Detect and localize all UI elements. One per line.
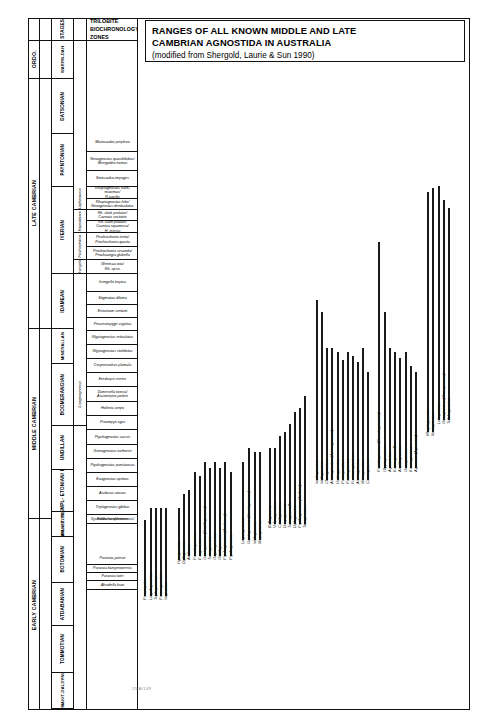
figure-number: 25/A/149 <box>132 686 151 691</box>
zone-31: Pararaia tatei <box>87 573 138 581</box>
zone-19: Holteria arepo <box>87 402 138 416</box>
zone-11-label: Stigmatoa diloma <box>97 296 128 300</box>
stage-10: ORDIAN/ E. TEMP. <box>52 512 73 537</box>
subzone-2-label: Peichiashania <box>78 235 82 257</box>
system-2: MIDDLE CAMBRIAN <box>28 329 39 519</box>
header-stages-label: STAGES <box>60 19 65 39</box>
zone-2: Sinosaukia impages <box>87 171 138 187</box>
zone-32-label: Abadiella huoi <box>100 583 125 587</box>
header-series <box>40 18 51 41</box>
zone-9: Wentsua iota/Rh. apsis <box>87 260 138 274</box>
taxon-label: Agnostus (Agnostus) <box>413 435 418 472</box>
zone-29: Pararaia janeae <box>87 552 138 565</box>
stage-14-label: NEMAKIT-DALDYNIAN <box>60 673 65 709</box>
zone-24-label: Euagnostus opimus <box>95 477 129 481</box>
range-bar <box>448 208 450 420</box>
range-bar <box>427 192 429 432</box>
taxon-label: Aspidagnostus <box>397 446 402 472</box>
zone-20-label: Proampyx agra <box>99 420 126 424</box>
zone-20: Proampyx agra <box>87 416 138 430</box>
zone-18: Damesella torosa/Ascionepea janitrix <box>87 387 138 402</box>
series-seg-2 <box>40 329 51 519</box>
zone-21: Ptychagnostus cassis <box>87 430 138 445</box>
stage-1-label: DATSONIAN <box>60 92 65 121</box>
zone-14-label: Glyptagnostus reticulatus <box>91 335 134 339</box>
zone-30-label: Pararaia bunyerooensis <box>92 566 133 570</box>
subzone-3-label: Irvingella <box>78 260 82 274</box>
system-2-label: MIDDLE CAMBRIAN <box>31 397 37 450</box>
subzone-3: Irvingella <box>74 260 86 274</box>
zone-16: Corynexochus plumula <box>87 359 138 373</box>
stage-3: IVERIAN <box>52 187 73 274</box>
zone-4: Rhaptagnostus felix/Neoagnostus denticul… <box>87 199 138 210</box>
zone-14: Glyptagnostus reticulatus <box>87 331 138 345</box>
taxon-label: Taxagnostus <box>302 506 307 528</box>
zone-23: Ptychagnostus punctuosus <box>87 459 138 473</box>
zone-3-label: Rhaptagnostus clark-maximus/R.papilio <box>87 187 138 199</box>
subzone-2: Peichiashania <box>74 233 86 260</box>
series-seg-0 <box>40 41 51 79</box>
stage-4-label: IDAMEAN <box>60 290 65 313</box>
zone-13-label: Proceratopyge cryptica <box>93 322 133 326</box>
zone-24: Euagnostus opimus <box>87 473 138 487</box>
zone-17-label: Eredaspis eretes <box>98 377 128 381</box>
header-zones: TRILOBITEBIOCHRONOLOGY:ZONES <box>87 18 138 41</box>
stage-6: BOOMERANGIAN <box>52 364 73 426</box>
stage-2: PAYNTONIAN <box>52 134 73 187</box>
zone-13: Proceratopyge cryptica <box>87 318 138 331</box>
zone-23-label: Ptychagnostus punctuosus <box>89 463 135 467</box>
system-3-label: EARLY CAMBRIAN <box>31 580 37 630</box>
series-seg-1 <box>40 79 51 329</box>
zone-2-label: Sinosaukia impages <box>95 176 130 180</box>
system-0-label: ORDO. <box>31 50 37 68</box>
stage-0: WARRN-DAH <box>52 41 73 79</box>
taxon-label: Trilobagnostus <box>446 398 451 424</box>
zone-9-label: Wentsua iota/Rh. apsis <box>100 262 124 271</box>
zone-5: Rh. clark prolatus/Caznaia sectatrix <box>87 210 138 221</box>
stage-8-label: LATE TEMPL- ETONIAN/ FLORAN <box>60 470 65 512</box>
system-column: ORDO.LATE CAMBRIANMIDDLE CAMBRIANEARLY C… <box>28 18 40 710</box>
range-bar <box>389 348 391 468</box>
stage-6-label: BOOMERANGIAN <box>60 374 65 415</box>
taxon-label: Neoagnostus <box>430 413 435 436</box>
taxon-label: Peronopsis <box>142 580 147 600</box>
stage-11-label: BOTOMIAN <box>60 546 65 573</box>
range-bar <box>316 300 318 480</box>
taxon-label: Ptychagnostus (Acidusus) <box>222 514 227 560</box>
range-bar <box>438 186 440 420</box>
header-subzone <box>74 18 86 41</box>
taxon-label: Ptychagnostus <box>228 534 233 560</box>
stage-12: ATDABANIAN <box>52 583 73 626</box>
zone-26: Triplagnostus gibbus <box>87 501 138 515</box>
zone-18-label: Damesella torosa/Ascionepea janitrix <box>96 390 129 399</box>
stage-0-label: WARRN-DAH <box>60 46 65 73</box>
taxon-label: Itagnostus <box>163 582 168 600</box>
stage-14: NEMAKIT-DALDYNIAN <box>52 673 73 709</box>
zone-4-label: Rhaptagnostus felix/Neoagnostus denticul… <box>90 200 134 209</box>
zone-15: Glyptagnostus stolidotus <box>87 345 138 359</box>
zone-12-label: Erixanium sentum <box>97 309 129 313</box>
stage-13-label: TOMMOTIAN <box>60 634 65 664</box>
system-1: LATE CAMBRIAN <box>28 79 39 329</box>
range-bar <box>321 312 323 480</box>
zone-32: Abadiella huoi <box>87 581 138 590</box>
stage-13: TOMMOTIAN <box>52 626 73 673</box>
header-zones-label: TRILOBITEBIOCHRONOLOGY:ZONES <box>87 18 138 41</box>
system-1-label: LATE CAMBRIAN <box>31 180 37 226</box>
zone-8-label: Peichiashania secunda/Prochuangia glabel… <box>92 249 133 258</box>
zone-7-label: Peichiashania tertia/Peichiashania quart… <box>94 235 130 244</box>
stage-10-label: ORDIAN/ E. TEMP. <box>60 512 65 537</box>
zone-31-label: Pararaia tatei <box>101 574 125 578</box>
zone-0-label: Mictosaukia perplexa <box>94 140 131 144</box>
system-0: ORDO. <box>28 41 39 79</box>
zone-1: Neoagnostus quasibilobus/Shergoldia noma… <box>87 152 138 171</box>
zone-28-label: Xystridura templetonensis/ <box>90 517 135 521</box>
zone-25: Acidusus atavus <box>87 487 138 501</box>
zone-7: Peichiashania tertia/Peichiashania quart… <box>87 233 138 247</box>
zone-5-label: Rh. clark prolatus/Caznaia sectatrix <box>97 211 129 220</box>
stage-3-label: IVERIAN <box>60 220 65 240</box>
series-seg-3 <box>40 519 51 709</box>
stage-column: STAGESWARRN-DAHDATSONIANPAYNTONIANIVERIA… <box>52 18 74 710</box>
subzone-0-label: Lophosaurus <box>78 188 82 209</box>
zone-22-label: Goniagnostus nathorsti <box>93 449 133 453</box>
